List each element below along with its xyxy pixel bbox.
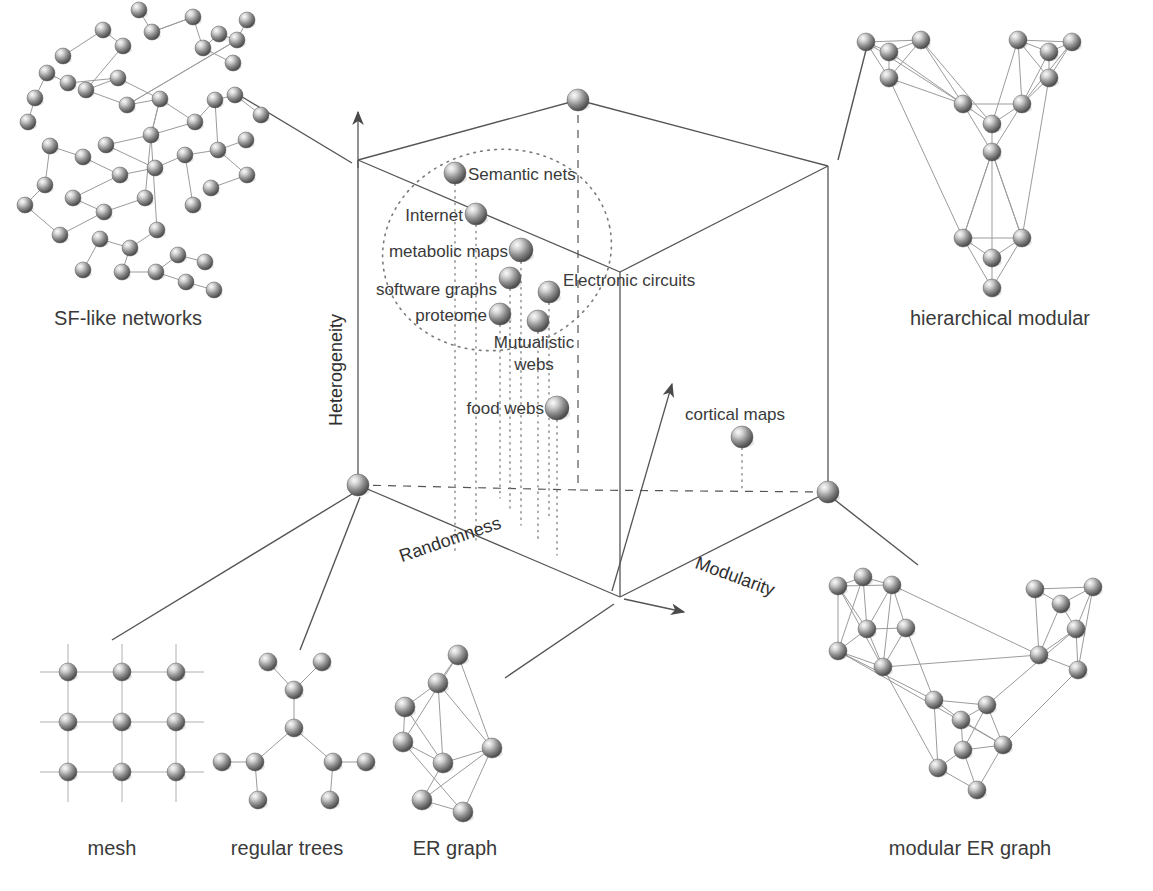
node-sphere	[731, 426, 753, 448]
node-sphere	[880, 43, 898, 61]
node-sphere	[27, 90, 43, 106]
data-point-internet[interactable]: Internet	[405, 203, 488, 225]
edge	[963, 152, 992, 238]
node-sphere	[113, 663, 131, 681]
node-sphere	[453, 802, 473, 822]
node-sphere	[253, 107, 269, 123]
caption-modular-er-graph: modular ER graph	[889, 837, 1051, 859]
leader-line-modular-er-graph	[835, 500, 918, 565]
z-axis-arrow	[624, 599, 684, 612]
edge	[992, 152, 1022, 238]
network-er-graph	[393, 645, 503, 822]
node-sphere	[137, 190, 153, 206]
edge	[358, 485, 620, 597]
node-sphere	[119, 97, 135, 113]
point-label: Internet	[405, 206, 463, 225]
node-sphere	[167, 763, 185, 781]
data-point-semantic-nets[interactable]: Semantic nets	[444, 162, 576, 184]
edge	[892, 585, 1039, 655]
node-sphere	[1030, 646, 1048, 664]
data-point-electronic-circuits[interactable]: Electronic circuits	[538, 271, 695, 303]
node-sphere	[170, 247, 186, 263]
node-sphere	[59, 763, 77, 781]
node-sphere	[954, 741, 972, 759]
node-sphere	[115, 38, 131, 54]
node-sphere	[114, 264, 130, 280]
node-sphere	[238, 132, 254, 148]
node-sphere	[42, 138, 58, 154]
network-hierarchical-modular	[857, 31, 1082, 297]
node-sphere	[285, 681, 303, 699]
node-sphere	[854, 568, 872, 586]
edge	[889, 52, 963, 104]
node-sphere	[110, 70, 126, 86]
node-sphere	[143, 127, 159, 143]
data-point-metabolic-maps[interactable]: metabolic maps	[389, 238, 534, 262]
node-sphere	[983, 279, 1001, 297]
edge	[151, 135, 157, 230]
data-point-software-graphs[interactable]: software graphs	[376, 267, 522, 299]
node-sphere	[952, 711, 970, 729]
edge	[921, 40, 963, 104]
edge	[403, 655, 458, 742]
node-sphere	[225, 55, 241, 71]
x-axis-arrow	[612, 384, 672, 591]
node-sphere	[195, 40, 211, 56]
edge	[358, 100, 578, 160]
node-sphere	[395, 697, 415, 717]
node-sphere	[75, 262, 91, 278]
node-sphere	[75, 149, 91, 165]
node-sphere	[1069, 661, 1087, 679]
node-sphere	[829, 577, 847, 595]
node-sphere	[994, 736, 1012, 754]
node-sphere	[428, 673, 448, 693]
node-sphere	[880, 69, 898, 87]
node-sphere	[321, 791, 339, 809]
node-sphere	[412, 790, 432, 810]
node-sphere	[206, 282, 222, 298]
edge	[1018, 40, 1022, 104]
node-sphere	[357, 753, 375, 771]
node-sphere	[968, 781, 986, 799]
edge	[422, 748, 492, 800]
edge	[463, 748, 492, 812]
leader-line-er-graph	[505, 604, 614, 678]
node-sphere	[52, 227, 68, 243]
leader-line-sf-like-networks	[234, 92, 352, 163]
node-sphere	[285, 719, 303, 737]
node-sphere	[983, 249, 1001, 267]
data-point-food-webs[interactable]: food webs	[467, 396, 571, 420]
caption-sf-like-networks: SF-like networks	[54, 307, 202, 329]
caption-regular-trees: regular trees	[231, 837, 343, 859]
node-sphere	[858, 620, 876, 638]
node-sphere	[1040, 69, 1058, 87]
edge	[883, 655, 1039, 667]
node-sphere	[444, 162, 466, 184]
node-sphere	[538, 281, 560, 303]
node-sphere	[1067, 620, 1085, 638]
data-point-proteome[interactable]: proteome	[415, 303, 512, 325]
node-sphere	[465, 203, 487, 225]
node-sphere	[185, 197, 201, 213]
node-sphere	[167, 713, 185, 731]
edge	[889, 78, 963, 238]
node-sphere	[96, 204, 112, 220]
node-sphere	[229, 32, 245, 48]
node-sphere	[1040, 43, 1058, 61]
node-sphere	[912, 31, 930, 49]
node-sphere	[210, 142, 226, 158]
figure-canvas: Semantic netsInternetmetabolic mapssoftw…	[0, 0, 1153, 891]
caption-hierarchical-modular: hierarchical modular	[910, 307, 1090, 329]
node-sphere	[122, 240, 138, 256]
node-sphere	[152, 91, 168, 107]
edge	[358, 485, 578, 490]
network-mesh	[40, 644, 204, 802]
data-point-cortical-maps[interactable]: cortical maps	[685, 405, 785, 448]
node-sphere	[113, 713, 131, 731]
x-axis-label: Randomness	[397, 513, 504, 566]
point-label: proteome	[415, 306, 487, 325]
network-regular-trees	[213, 653, 376, 809]
node-sphere	[95, 22, 111, 38]
node-sphere	[874, 658, 892, 676]
caption-mesh: mesh	[88, 837, 137, 859]
